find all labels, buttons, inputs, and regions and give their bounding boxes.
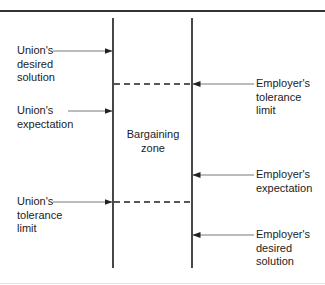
employer-expectation-label: Employer's expectation xyxy=(256,168,312,195)
union-expectation-label: Union's expectation xyxy=(17,104,73,131)
employer-desired-solution-label: Employer's desired solution xyxy=(256,228,310,269)
employer-tolerance-limit-label: Employer's tolerance limit xyxy=(256,77,310,118)
union-tolerance-limit-label: Union's tolerance limit xyxy=(17,195,62,236)
bargaining-zone-label: Bargaining zone xyxy=(122,128,184,155)
union-desired-solution-label: Union's desired solution xyxy=(17,44,55,85)
